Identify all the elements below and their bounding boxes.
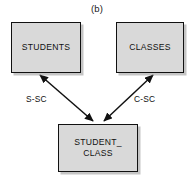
entity-label-classes: CLASSES xyxy=(129,42,170,53)
relationship-label-student-class: STUDENT_ CLASS xyxy=(74,137,121,159)
entity-label-students: STUDENTS xyxy=(22,42,70,53)
entity-box-classes[interactable]: CLASSES xyxy=(116,22,184,73)
edge-line-s-sc xyxy=(40,75,93,121)
relationship-box-student-class[interactable]: STUDENT_ CLASS xyxy=(58,124,138,172)
edge-label-c-sc: C-SC xyxy=(134,94,155,104)
figure-canvas: (b) STUDENTS CLASSES STUDENT_ CLASS S-SC… xyxy=(0,0,194,178)
edge-label-s-sc: S-SC xyxy=(26,94,47,104)
entity-box-students[interactable]: STUDENTS xyxy=(11,22,81,73)
